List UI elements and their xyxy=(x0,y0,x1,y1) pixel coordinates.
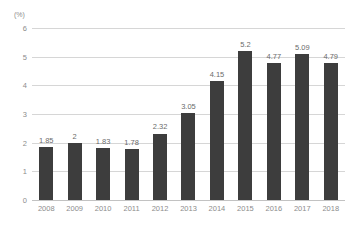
bar-2012[interactable] xyxy=(153,134,167,201)
y-axis-tick-label: 1 xyxy=(23,167,27,176)
y-axis-tick-label: 0 xyxy=(23,196,27,205)
x-axis-tick-label: 2011 xyxy=(124,204,140,213)
x-axis-tick-label: 2018 xyxy=(322,204,339,213)
bar-value-label: 3.05 xyxy=(181,102,196,111)
bar-2008[interactable] xyxy=(39,147,53,200)
x-axis-tick-label: 2014 xyxy=(209,204,226,213)
bar-group: 4.792018 xyxy=(317,28,345,200)
y-axis-unit-label: (%) xyxy=(14,11,25,18)
bar-group: 5.22015 xyxy=(231,28,259,200)
x-axis-tick-label: 2016 xyxy=(266,204,283,213)
bar-group: 1.832010 xyxy=(89,28,117,200)
x-axis-tick-label: 2012 xyxy=(152,204,169,213)
bar-group: 3.052013 xyxy=(174,28,202,200)
bar-value-label: 1.78 xyxy=(124,138,139,147)
bar-group: 1.852008 xyxy=(32,28,60,200)
bar-2011[interactable] xyxy=(125,149,139,200)
x-axis-tick-label: 2010 xyxy=(95,204,112,213)
bar-2016[interactable] xyxy=(267,63,281,200)
bar-value-label: 4.15 xyxy=(210,70,225,79)
bar-group: 4.152014 xyxy=(203,28,231,200)
bar-value-label: 1.83 xyxy=(96,137,111,146)
bar-2010[interactable] xyxy=(96,148,110,200)
y-axis-tick-label: 5 xyxy=(23,52,27,61)
x-axis-tick-label: 2015 xyxy=(237,204,254,213)
bars: 1.852008220091.8320101.7820112.3220123.0… xyxy=(32,28,345,200)
bar-value-label: 2.32 xyxy=(153,122,168,131)
bar-2017[interactable] xyxy=(295,54,309,200)
gridline-0: 0 xyxy=(32,200,345,201)
bar-value-label: 1.85 xyxy=(39,136,54,145)
bar-2009[interactable] xyxy=(68,143,82,200)
y-axis-tick-label: 2 xyxy=(23,138,27,147)
y-axis-tick-label: 3 xyxy=(23,110,27,119)
bar-value-label: 4.77 xyxy=(267,52,282,61)
bar-2015[interactable] xyxy=(238,51,252,200)
y-axis-tick-label: 4 xyxy=(23,81,27,90)
bar-group: 1.782011 xyxy=(117,28,145,200)
bar-value-label: 4.79 xyxy=(323,52,338,61)
x-axis-tick-label: 2013 xyxy=(180,204,197,213)
y-axis-tick-label: 6 xyxy=(23,24,27,33)
bar-2018[interactable] xyxy=(324,63,338,200)
x-axis-tick-label: 2009 xyxy=(66,204,83,213)
bar-group: 4.772016 xyxy=(260,28,288,200)
bar-group: 2.322012 xyxy=(146,28,174,200)
bar-group: 22009 xyxy=(60,28,88,200)
bar-2013[interactable] xyxy=(181,113,195,200)
bar-value-label: 5.09 xyxy=(295,43,310,52)
bar-chart: (%) 0123456 1.852008220091.8320101.78201… xyxy=(0,0,358,230)
bar-value-label: 2 xyxy=(73,132,77,141)
plot-area: 0123456 1.852008220091.8320101.7820112.3… xyxy=(32,28,345,200)
bar-2014[interactable] xyxy=(210,81,224,200)
bar-group: 5.092017 xyxy=(288,28,316,200)
bar-value-label: 5.2 xyxy=(240,40,250,49)
x-axis-tick-label: 2017 xyxy=(294,204,311,213)
x-axis-tick-label: 2008 xyxy=(38,204,55,213)
